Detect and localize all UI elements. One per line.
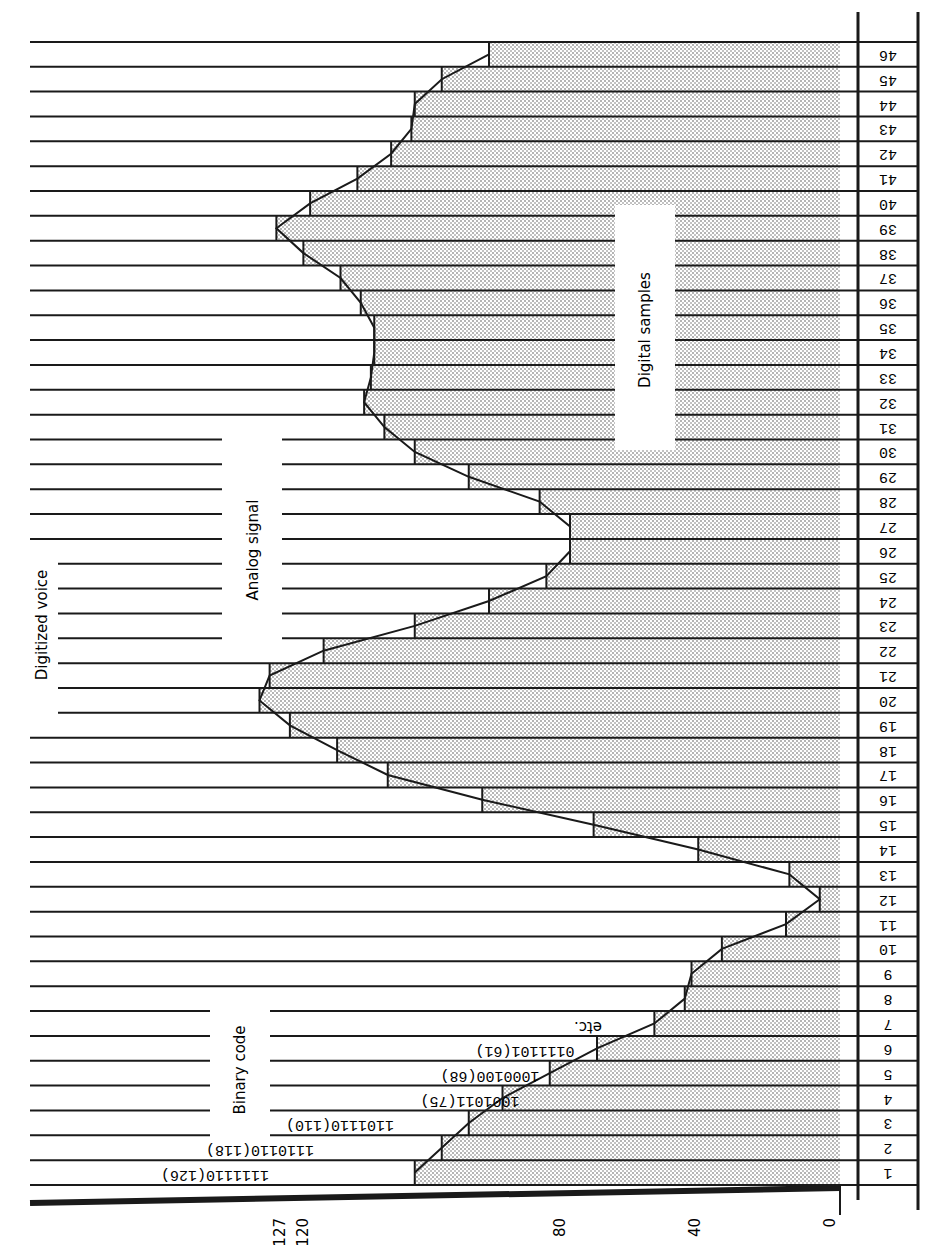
sample-number: 1 [883, 1164, 892, 1181]
sample-number: 35 [879, 319, 897, 336]
axis-tick-label: 127 [271, 1218, 289, 1246]
sample-bar [371, 365, 840, 390]
sample-bar [276, 216, 840, 241]
sample-number: 8 [883, 990, 892, 1007]
sample-bar [391, 141, 840, 166]
sample-bar [384, 415, 840, 440]
sample-bar [260, 688, 841, 713]
sample-number: 39 [879, 220, 897, 237]
sample-bar [489, 589, 840, 614]
sample-bar [442, 67, 840, 92]
sample-number: 26 [879, 543, 897, 560]
sample-bar [692, 961, 841, 986]
sample-number: 5 [883, 1065, 892, 1082]
sample-number: 9 [883, 965, 892, 982]
sample-number: 18 [879, 742, 897, 759]
binary-code-label: 1111110(126) [161, 1166, 269, 1183]
sample-number: 11 [879, 916, 897, 933]
sample-bar [685, 986, 840, 1011]
sample-bar [415, 92, 840, 117]
sample-number: 14 [879, 841, 897, 858]
sample-number: 6 [883, 1040, 892, 1057]
sample-bar [415, 613, 840, 638]
sample-number: 3 [883, 1114, 892, 1131]
sample-bar [570, 514, 840, 539]
sample-bar [570, 539, 840, 564]
axis-tick-label: 120 [294, 1218, 312, 1246]
sample-number: 37 [879, 269, 897, 286]
sample-bar [469, 1110, 840, 1135]
digitized-voice-chart: 1111110(126)1110110(118)1101110(110)1001… [0, 0, 947, 1246]
sample-number: 13 [879, 866, 897, 883]
sample-bar [442, 1135, 840, 1160]
sample-bar [654, 1011, 840, 1036]
binary-code-label: 1110110(118) [206, 1141, 314, 1158]
sample-bar [337, 738, 840, 763]
sample-number: 33 [879, 369, 897, 386]
sample-bar [546, 564, 840, 589]
analog-signal-label: Analog signal [244, 500, 262, 601]
sample-bar [698, 837, 840, 862]
sample-bar [374, 315, 840, 340]
sample-number: 16 [879, 791, 897, 808]
sample-number: 7 [883, 1015, 892, 1032]
digitized-voice-label: Digitized voice [33, 570, 51, 681]
sample-number: 29 [879, 468, 897, 485]
sample-number: 41 [879, 170, 897, 187]
sample-bar [540, 489, 840, 514]
sample-bar [789, 862, 840, 887]
sample-number: 15 [879, 816, 897, 833]
sample-number: 30 [879, 443, 897, 460]
sample-bar [550, 1061, 840, 1086]
binary-code-label: 1000100(68) [440, 1067, 539, 1084]
sample-number: 45 [879, 71, 897, 88]
sample-number: 25 [879, 568, 897, 585]
sample-bar [469, 464, 840, 489]
axis-tick-label: 0 [821, 1218, 839, 1228]
binary-code-label: Binary code [231, 1025, 249, 1114]
sample-bar [270, 663, 840, 688]
sample-bar [489, 42, 840, 67]
sample-number: 20 [879, 692, 897, 709]
sample-number: 40 [879, 195, 897, 212]
sample-number: 10 [879, 940, 897, 957]
sample-bar [324, 638, 840, 663]
sample-number: 46 [879, 46, 897, 63]
sample-number: 27 [879, 518, 897, 535]
sample-number: 17 [879, 766, 897, 783]
sample-number: 2 [883, 1139, 892, 1156]
sample-bar [482, 787, 840, 812]
sample-number: 23 [879, 617, 897, 634]
sample-bar [388, 763, 840, 788]
sample-bar [820, 887, 840, 912]
sample-bar [310, 191, 840, 216]
sample-bar [341, 266, 841, 291]
sample-number: 28 [879, 493, 897, 510]
sample-bar [597, 1036, 840, 1061]
sample-bar [722, 937, 840, 962]
sample-number: 44 [879, 96, 897, 113]
etc-label: etc. [574, 1018, 602, 1036]
sample-number: 42 [879, 145, 897, 162]
sample-bar [415, 1160, 840, 1185]
sample-bar [361, 290, 840, 315]
sample-number: 12 [879, 891, 897, 908]
sample-number: 43 [879, 120, 897, 137]
sample-bar [357, 166, 840, 191]
sample-number: 24 [879, 593, 897, 610]
axis-tick-label: 40 [686, 1218, 704, 1237]
sample-number: 22 [879, 642, 897, 659]
sample-bar [364, 390, 840, 415]
sample-bar [786, 912, 840, 937]
sample-number: 36 [879, 294, 897, 311]
sample-number: 34 [879, 344, 897, 361]
sample-number: 31 [879, 419, 897, 436]
sample-number: 32 [879, 394, 897, 411]
sample-bar [303, 241, 840, 266]
binary-code-label: 1101110(110) [286, 1116, 394, 1133]
axis-tick-label: 80 [551, 1218, 569, 1237]
binary-code-label: 0111101(61) [475, 1042, 574, 1059]
amplitude-axis: 04080120127 [30, 1186, 840, 1246]
sample-number: 19 [879, 717, 897, 734]
sample-number: 38 [879, 245, 897, 262]
